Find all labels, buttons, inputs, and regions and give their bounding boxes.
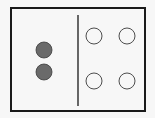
empty-circle bbox=[86, 28, 102, 44]
filled-circle bbox=[36, 64, 52, 80]
filled-circle-group bbox=[36, 42, 52, 80]
empty-circle bbox=[86, 73, 102, 89]
diagram-canvas bbox=[0, 0, 155, 118]
empty-circle bbox=[119, 28, 135, 44]
empty-circle-group bbox=[86, 28, 135, 89]
filled-circle bbox=[36, 42, 52, 58]
empty-circle bbox=[119, 73, 135, 89]
